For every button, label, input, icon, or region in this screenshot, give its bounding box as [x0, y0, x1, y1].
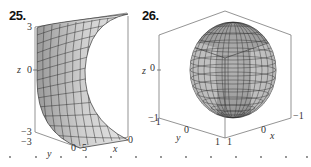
x-tick-start: 1 — [227, 137, 232, 147]
figure-25: 25. — [0, 0, 155, 167]
x-tick-start: 5 — [82, 143, 87, 153]
x-axis-label: x — [270, 131, 274, 141]
y-tick-start: −3 — [21, 137, 32, 147]
y-tick-end: 0 — [71, 143, 76, 153]
y-tick-start: −1 — [150, 117, 161, 127]
figure-26: 26. — [155, 0, 311, 167]
x-tick-mid: 0 — [261, 125, 266, 135]
x-tick-end: −1 — [293, 111, 304, 121]
z-axis-label: z — [17, 65, 21, 75]
y-axis-label: y — [176, 133, 180, 143]
z-tick-top: 3 — [27, 22, 32, 32]
x-tick-end: 0 — [128, 135, 133, 145]
x-axis-label: x — [113, 144, 117, 154]
next-row-markers — [0, 154, 311, 160]
z-tick-mid: 0 — [150, 63, 155, 73]
y-tick-mid: 0 — [184, 125, 189, 135]
y-tick-end: 1 — [215, 137, 220, 147]
z-axis-label: z — [142, 66, 146, 76]
z-tick-mid: 0 — [27, 65, 32, 75]
